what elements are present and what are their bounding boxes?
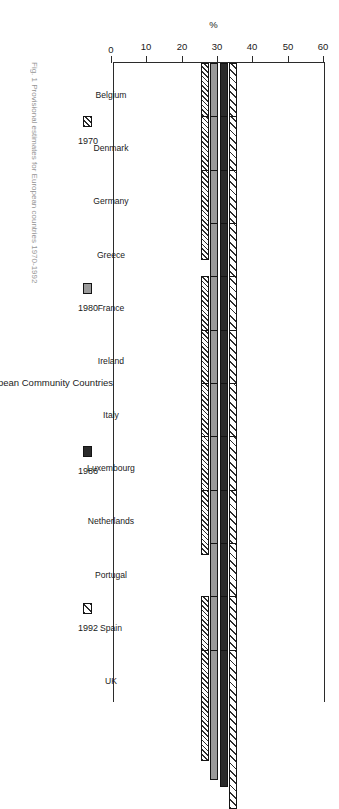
bar-row — [210, 543, 218, 596]
bar-row — [210, 170, 218, 223]
legend-item-1970[interactable]: 1970 — [83, 116, 93, 151]
legend-item-1992[interactable]: 1992 — [83, 603, 93, 638]
bar-row — [229, 436, 237, 489]
bar-group — [114, 490, 324, 543]
bar-uk-1992 — [229, 650, 237, 809]
legend-label-1986: 1986 — [78, 466, 98, 476]
y-axis-tick-label: 10 — [141, 41, 152, 52]
bar-row — [220, 543, 228, 596]
legend-item-1986[interactable]: 1986 — [83, 446, 93, 481]
bar-row — [220, 490, 228, 543]
bar-row — [201, 223, 209, 276]
bar-row — [220, 650, 228, 703]
y-axis-tick-label: 30 — [212, 41, 223, 52]
y-axis-tick: 30 — [217, 56, 218, 63]
legend-swatch-1992 — [84, 603, 93, 614]
bar-row — [229, 490, 237, 543]
bar-row — [201, 650, 209, 703]
y-axis-tick-label: 60 — [318, 41, 329, 52]
bar-row — [201, 436, 209, 489]
bar-row — [229, 170, 237, 223]
bar-row — [210, 223, 218, 276]
y-axis-tick-label: 50 — [282, 41, 293, 52]
y-axis-tick: 60 — [323, 56, 324, 63]
bar-row — [201, 276, 209, 329]
figure-caption: Fig. 1 Provisional estimates for Europea… — [30, 62, 39, 702]
bar-row — [220, 330, 228, 383]
bar-row — [220, 116, 228, 169]
legend-label-1980: 1980 — [78, 303, 98, 313]
bar-row — [220, 63, 228, 116]
bar-row — [220, 383, 228, 436]
legend-swatch-1980 — [84, 283, 93, 294]
bar-row — [220, 170, 228, 223]
bar-row — [210, 596, 218, 649]
plot-area: 0102030405060BelgiumDenmarkGermanyGreece… — [113, 62, 325, 702]
bar-row — [201, 383, 209, 436]
bar-row — [201, 116, 209, 169]
bar-row — [210, 63, 218, 116]
bar-group — [114, 276, 324, 329]
bar-row — [229, 63, 237, 116]
bar-row — [201, 596, 209, 649]
legend-item-1980[interactable]: 1980 — [83, 283, 93, 318]
legend-label-1970: 1970 — [78, 136, 98, 146]
legend: 1970198019861992 — [59, 62, 93, 702]
bar-group — [114, 596, 324, 649]
y-axis-tick: 10 — [146, 56, 147, 63]
bar-row — [210, 490, 218, 543]
y-axis-tick-label: 40 — [247, 41, 258, 52]
bar-row — [229, 650, 237, 703]
bar-group — [114, 543, 324, 596]
bar-group — [114, 650, 324, 703]
legend-swatch-1986 — [84, 446, 93, 457]
bar-row — [210, 116, 218, 169]
bar-row — [210, 330, 218, 383]
bar-row — [201, 170, 209, 223]
bar-group — [114, 116, 324, 169]
bar-group — [114, 170, 324, 223]
bar-group — [114, 436, 324, 489]
bar-row — [210, 650, 218, 703]
y-axis-tick: 20 — [182, 56, 183, 63]
legend-label-1992: 1992 — [78, 623, 98, 633]
bar-row — [201, 543, 209, 596]
bar-row — [201, 330, 209, 383]
bar-uk-1986 — [220, 650, 228, 788]
bar-row — [220, 436, 228, 489]
bar-row — [229, 116, 237, 169]
bar-uk-1970 — [201, 650, 209, 761]
bar-row — [201, 490, 209, 543]
bar-group — [114, 223, 324, 276]
bar-group — [114, 63, 324, 116]
bar-row — [220, 223, 228, 276]
y-axis-tick-label: 0 — [108, 44, 113, 55]
y-axis-tick: 50 — [288, 56, 289, 63]
bar-row — [220, 276, 228, 329]
legend-swatch-1970 — [84, 116, 93, 127]
bar-row — [220, 596, 228, 649]
bar-row — [229, 330, 237, 383]
bar-row — [229, 223, 237, 276]
bar-row — [210, 436, 218, 489]
y-axis-tick: 40 — [252, 56, 253, 63]
y-axis-tick: 0 — [111, 56, 112, 63]
bar-row — [229, 383, 237, 436]
bar-row — [229, 543, 237, 596]
bar-group — [114, 330, 324, 383]
bar-group — [114, 383, 324, 436]
bar-row — [210, 276, 218, 329]
y-axis-tick-label: 20 — [176, 41, 187, 52]
bar-uk-1980 — [210, 650, 218, 781]
bar-row — [229, 596, 237, 649]
bar-row — [229, 276, 237, 329]
y-axis-title: % — [209, 19, 217, 30]
bar-row — [201, 63, 209, 116]
bar-row — [210, 383, 218, 436]
